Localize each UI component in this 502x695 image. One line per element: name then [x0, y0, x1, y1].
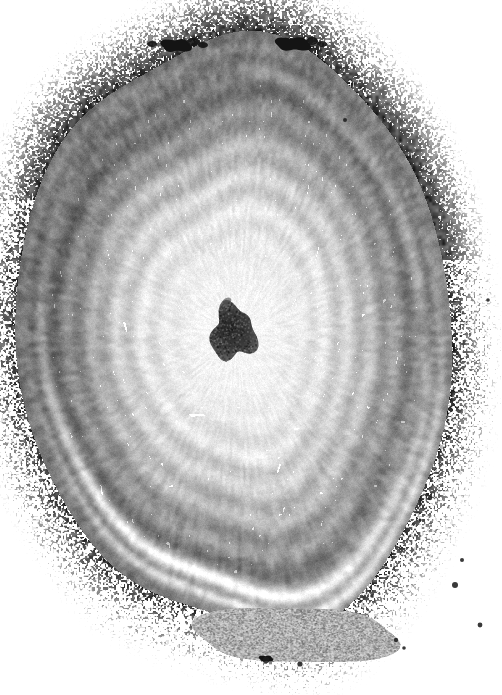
- micrograph-image: [0, 0, 502, 695]
- micrograph-figure: [0, 0, 502, 695]
